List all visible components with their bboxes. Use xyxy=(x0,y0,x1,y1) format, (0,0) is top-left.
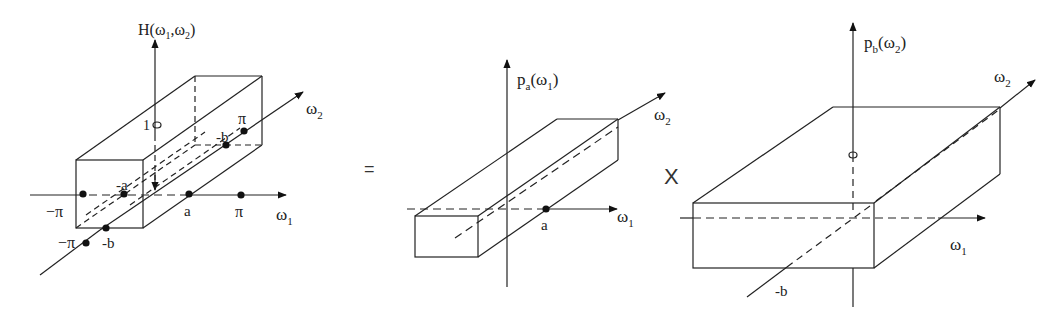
separable-filter-diagram: H(ω1,ω2) ω2 ω1 −π -a a π −π -b -b π 1 = … xyxy=(0,0,1060,322)
h-tick-neg-b-back: -b xyxy=(216,129,229,145)
pa-tick-a: a xyxy=(541,217,548,233)
pa-w1-label: ω1 xyxy=(617,207,634,229)
pb-box-front xyxy=(693,203,874,268)
h-tick-height: 1 xyxy=(143,118,150,133)
pb-tick-neg-b: -b xyxy=(775,283,788,299)
pa-w2-axis xyxy=(455,127,618,238)
h-tick-neg-pi-w2: −π xyxy=(58,234,75,251)
equals-operator: = xyxy=(364,159,375,179)
h-tick-neg-b-front: -b xyxy=(102,235,115,251)
h-w2-label: ω2 xyxy=(306,99,323,121)
pa-axis-label: pa(ω1) xyxy=(517,70,558,92)
pb-w2-label: ω2 xyxy=(994,67,1011,89)
h-tick-neg-a: -a xyxy=(116,177,128,193)
h-tick-pi-w1: π xyxy=(235,203,243,220)
h-w1-label: ω1 xyxy=(276,205,293,227)
panel-pb-filter xyxy=(680,23,1035,307)
pb-axis-label: pb(ω2) xyxy=(864,33,906,55)
pb-w1-label: ω1 xyxy=(950,235,967,257)
pa-tick-dot xyxy=(542,205,549,212)
h-height-marker-icon xyxy=(153,122,161,128)
h-tick-neg-pi-w1: −π xyxy=(46,203,63,220)
panel-pa-filter xyxy=(407,60,665,287)
h-tick-a: a xyxy=(184,203,191,219)
pa-box-front xyxy=(415,216,478,257)
pa-w2-label: ω2 xyxy=(654,105,671,127)
h-tick-pi-w2: π xyxy=(238,110,246,127)
h-axis-label: H(ω1,ω2) xyxy=(138,21,195,41)
times-operator: X xyxy=(664,164,679,189)
